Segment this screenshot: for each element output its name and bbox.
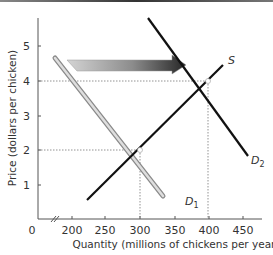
- supply-label: S: [228, 54, 235, 67]
- demand-shift-arrow-icon: [67, 55, 186, 74]
- y-tick-label: 1: [23, 179, 30, 192]
- x-tick-label: 250: [95, 224, 116, 237]
- supply-demand-chart: Price (dollars per chicken) 5 4 3 2 1: [0, 0, 273, 255]
- demand-curve-d1: [55, 58, 163, 196]
- x-tick-label: 400: [199, 224, 220, 237]
- d2-label: D2: [251, 154, 265, 169]
- axes: [38, 18, 262, 219]
- origin-label: 0: [29, 224, 36, 237]
- svg-text:D2: D2: [251, 154, 265, 169]
- y-tick-label: 5: [23, 40, 30, 53]
- x-tick-label: 450: [233, 224, 254, 237]
- y-tick-label: 3: [23, 110, 30, 123]
- y-tick-label: 4: [23, 75, 30, 88]
- top-rule: [0, 0, 273, 2]
- d1-label: D1: [185, 195, 199, 210]
- equilibrium-point-1: [138, 148, 143, 153]
- supply-curve: [87, 65, 223, 200]
- d1-subscript: 1: [193, 201, 198, 210]
- x-tick-label: 300: [130, 224, 151, 237]
- demand-curve-d2: [148, 18, 248, 156]
- x-tick-label: 350: [165, 224, 186, 237]
- x-tick-labels: 0 200 250 300 350 400 450: [29, 224, 254, 237]
- y-axis-title: Price (dollars per chicken): [6, 50, 18, 186]
- equilibrium-point-2: [206, 79, 211, 84]
- d2-letter: D: [251, 154, 259, 167]
- x-axis-title: Quantity (millions of chickens per year): [72, 238, 273, 250]
- guide-lines: [38, 81, 208, 219]
- svg-text:D1: D1: [185, 195, 199, 210]
- y-tick-labels: 5 4 3 2 1: [23, 40, 30, 192]
- d2-subscript: 2: [259, 160, 264, 169]
- x-tick-label: 200: [62, 224, 83, 237]
- y-tick-label: 2: [23, 144, 30, 157]
- d1-letter: D: [185, 195, 193, 208]
